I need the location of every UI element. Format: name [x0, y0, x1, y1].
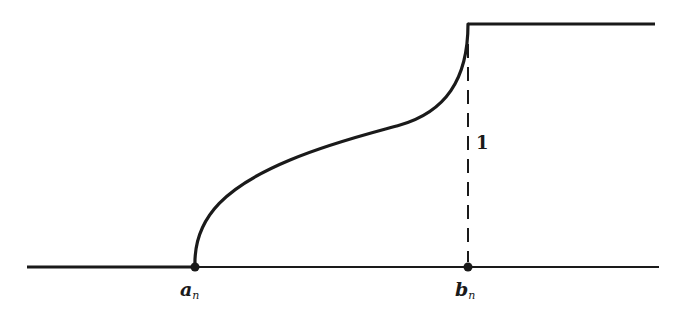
distribution-curve: [195, 24, 468, 267]
label-b-sub: n: [468, 289, 475, 302]
point-b: [464, 263, 473, 272]
label-b: bn: [455, 278, 475, 302]
label-a: an: [180, 278, 199, 302]
label-a-main: a: [180, 278, 192, 300]
label-b-main: b: [455, 278, 468, 300]
jump-label: 1: [476, 132, 489, 153]
figure: an bn 1: [0, 0, 687, 311]
label-a-sub: n: [192, 289, 199, 302]
point-a: [191, 263, 200, 272]
diagram-svg: [0, 0, 687, 311]
